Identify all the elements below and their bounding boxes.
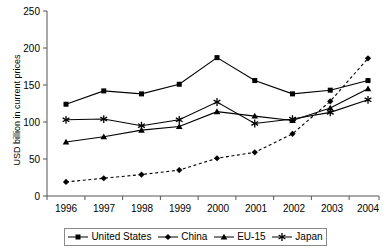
legend-item-label: Japan	[294, 232, 322, 242]
axis-lines	[43, 11, 379, 200]
plot-area	[0, 0, 389, 251]
series-layer	[63, 55, 372, 185]
square-marker-icon	[68, 231, 88, 243]
asterisk-marker-icon	[272, 231, 292, 243]
legend-item[interactable]: China	[158, 231, 207, 243]
legend-item-label: EU-15	[236, 232, 265, 242]
triangle-marker-icon	[214, 231, 234, 243]
legend-item-label: United States	[90, 232, 151, 242]
legend-item[interactable]: United States	[68, 231, 151, 243]
legend-item-label: China	[180, 232, 207, 242]
diamond-marker-icon	[158, 231, 178, 243]
legend-item[interactable]: EU-15	[214, 231, 265, 243]
line-chart: USD billion in current prices 250 200 15…	[0, 0, 389, 251]
legend: United StatesChinaEU-15Japan	[64, 228, 327, 246]
legend-item[interactable]: Japan	[272, 231, 322, 243]
